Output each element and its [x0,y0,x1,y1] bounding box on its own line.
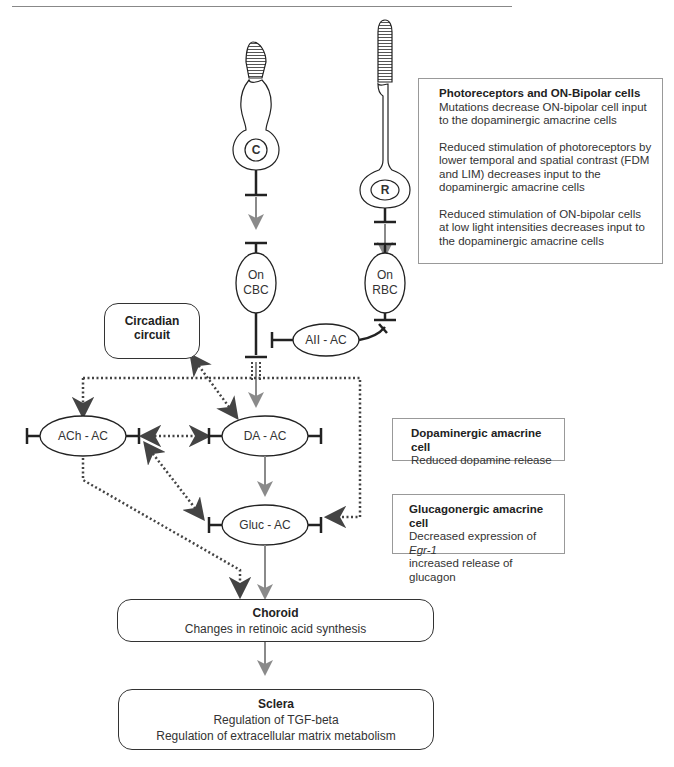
rod-label: R [375,183,395,197]
circadian-circuit-box: Circadian circuit [104,303,200,359]
sclera-box: Sclera Regulation of TGF-beta Regulation… [118,689,434,750]
ach-ac-label: ACh - AC [40,429,126,444]
egr1-line: Decreased expression of Egr-1 [409,530,554,557]
rod-photoreceptor [360,20,410,208]
choroid-box: Choroid Changes in retinoic acid synthes… [117,599,434,642]
dopaminergic-infobox: Dopaminergic amacrine cell Reduced dopam… [392,418,565,461]
glucagonergic-infobox: Glucagonergic amacrine cell Decreased ex… [392,494,565,554]
da-ac-label: DA - AC [222,429,308,444]
on-cbc-label: On CBC [231,268,281,298]
on-rbc-label: On RBC [360,268,410,298]
photoreceptors-infobox: Photoreceptors and ON-Bipolar cells Muta… [418,78,663,264]
gluc-ac-label: Gluc - AC [222,518,308,533]
cone-label: C [246,143,266,157]
aii-ac-label: AII - AC [293,333,359,348]
